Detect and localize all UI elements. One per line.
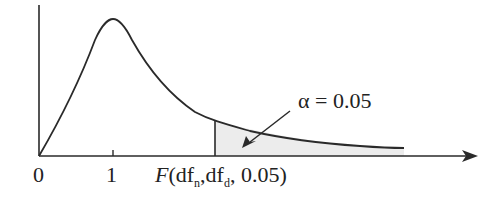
critical-value-label: F(dfn,dfd, 0.05) (155, 162, 287, 191)
tick-label-zero: 0 (33, 162, 44, 188)
cv-close: , 0.05) (230, 162, 287, 187)
rejection-region (215, 121, 404, 156)
tick-label-one: 1 (106, 162, 117, 188)
cv-open: (df (168, 162, 194, 187)
alpha-annotation: α = 0.05 (298, 88, 371, 114)
f-symbol: F (155, 162, 168, 187)
cv-mid: ,df (200, 162, 224, 187)
